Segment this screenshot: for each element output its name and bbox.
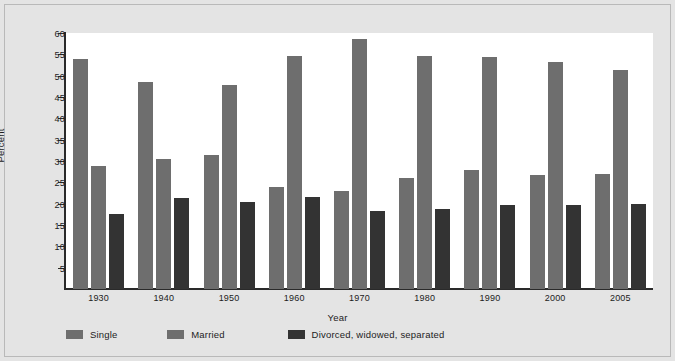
x-tick-label-1960: 1960 xyxy=(264,293,324,303)
bar-dws-1980 xyxy=(435,209,450,289)
x-tick-label-1980: 1980 xyxy=(395,293,455,303)
bar-dws-1960 xyxy=(305,197,320,289)
y-tick-label: 20 xyxy=(17,200,65,211)
y-tick: 45 xyxy=(0,97,65,98)
bar-married-2000 xyxy=(548,62,563,289)
legend-swatch-icon xyxy=(167,330,184,339)
y-tick-label: 35 xyxy=(17,136,65,147)
x-tick-label-1990: 1990 xyxy=(460,293,520,303)
y-tick: 35 xyxy=(0,140,65,141)
y-tick: 20 xyxy=(0,204,65,205)
bar-married-1990 xyxy=(482,57,497,289)
y-tick-label: 40 xyxy=(17,114,65,125)
y-tick-label: 10 xyxy=(17,242,65,253)
y-axis-label: Percent xyxy=(0,128,6,162)
bar-dws-1990 xyxy=(500,205,515,289)
bar-married-1940 xyxy=(156,159,171,289)
bar-dws-1970 xyxy=(370,211,385,289)
legend-swatch-icon xyxy=(66,330,83,339)
bar-single-1960 xyxy=(269,187,284,289)
y-tick-label: 60 xyxy=(17,29,65,40)
y-tick: 15 xyxy=(0,225,65,226)
y-tick-label: 15 xyxy=(17,221,65,232)
legend-label: Single xyxy=(90,329,118,340)
bar-single-2000 xyxy=(530,175,545,289)
x-tick-label-2000: 2000 xyxy=(525,293,585,303)
legend-item-1[interactable]: Single xyxy=(66,329,118,340)
bar-single-1990 xyxy=(464,170,479,289)
bar-dws-2000 xyxy=(566,205,581,289)
y-tick-label: 5 xyxy=(17,264,65,275)
bar-dws-1950 xyxy=(240,202,255,289)
bar-single-1940 xyxy=(138,82,153,289)
legend-label: Married xyxy=(191,329,225,340)
bar-dws-2005 xyxy=(631,204,646,289)
y-tick: 50 xyxy=(0,76,65,77)
y-tick: 5 xyxy=(0,268,65,269)
y-tick: 60 xyxy=(0,33,65,34)
bar-dws-1940 xyxy=(174,198,189,289)
y-tick-label: 45 xyxy=(17,93,65,104)
bar-single-1930 xyxy=(73,59,88,289)
y-tick-label: 30 xyxy=(17,157,65,168)
bar-single-2005 xyxy=(595,174,610,289)
y-tick: 25 xyxy=(0,182,65,183)
y-tick: 55 xyxy=(0,54,65,55)
bar-dws-1930 xyxy=(109,214,124,289)
x-tick-label-1950: 1950 xyxy=(199,293,259,303)
bar-married-2005 xyxy=(613,70,628,289)
y-tick: 30 xyxy=(0,161,65,162)
bar-married-1960 xyxy=(287,56,302,289)
y-tick-label: 50 xyxy=(17,72,65,83)
legend-label: Divorced, widowed, separated xyxy=(312,329,445,340)
y-tick: 10 xyxy=(0,246,65,247)
chart-legend: SingleMarriedDivorced, widowed, separate… xyxy=(66,329,444,340)
legend-swatch-icon xyxy=(288,330,305,339)
bar-married-1980 xyxy=(417,56,432,289)
x-tick-label-1940: 1940 xyxy=(134,293,194,303)
bar-single-1980 xyxy=(399,178,414,289)
legend-item-2[interactable]: Married xyxy=(167,329,225,340)
bar-married-1970 xyxy=(352,39,367,289)
legend-item-3[interactable]: Divorced, widowed, separated xyxy=(288,329,445,340)
bar-single-1970 xyxy=(334,191,349,289)
x-tick-label-2005: 2005 xyxy=(590,293,650,303)
y-tick-label: 55 xyxy=(17,50,65,61)
y-tick-label: 25 xyxy=(17,178,65,189)
bar-married-1930 xyxy=(91,166,106,289)
bar-married-1950 xyxy=(222,85,237,289)
chart-figure: 51015202530354045505560 1930194019501960… xyxy=(0,0,675,361)
x-axis-label: Year xyxy=(0,312,675,323)
x-tick-label-1970: 1970 xyxy=(330,293,390,303)
x-tick-label-1930: 1930 xyxy=(69,293,129,303)
bar-single-1950 xyxy=(204,155,219,289)
y-tick: 40 xyxy=(0,118,65,119)
